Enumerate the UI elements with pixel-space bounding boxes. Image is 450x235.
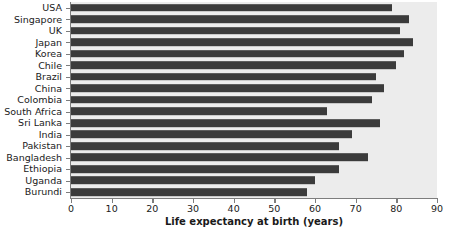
bar — [71, 177, 315, 185]
x-axis-tick-label: 50 — [268, 204, 280, 214]
x-axis-tick-label: 0 — [68, 204, 74, 214]
y-axis-label: Bangladesh — [0, 152, 66, 164]
bar-row — [71, 48, 437, 60]
x-axis-tick-label: 10 — [106, 204, 118, 214]
y-axis-label: Singapore — [0, 14, 66, 26]
x-axis-tick-label: 60 — [309, 204, 321, 214]
y-axis-tick — [66, 88, 70, 89]
bar — [71, 108, 327, 116]
bar — [71, 188, 307, 196]
bar-row — [71, 163, 437, 175]
x-axis-tick-label: 70 — [350, 204, 362, 214]
bar-row — [71, 25, 437, 37]
y-axis-label: India — [0, 129, 66, 141]
bar-row — [71, 83, 437, 95]
y-axis-label: UK — [0, 25, 66, 37]
bar-row — [71, 2, 437, 14]
y-axis-label: Colombia — [0, 94, 66, 106]
bar-row — [71, 60, 437, 72]
x-axis-title: Life expectancy at birth (years) — [71, 217, 437, 227]
y-axis-tick — [66, 158, 70, 159]
bar-row — [71, 37, 437, 49]
y-axis-tick — [66, 31, 70, 32]
y-axis-label: USA — [0, 2, 66, 14]
y-axis-label: Pakistan — [0, 140, 66, 152]
x-axis-tick-label: 80 — [390, 204, 402, 214]
y-axis-label: Burundi — [0, 186, 66, 198]
bar — [71, 15, 409, 23]
y-axis-label: Korea — [0, 48, 66, 60]
x-axis-tick-label: 40 — [228, 204, 240, 214]
x-axis-tick-label: 20 — [146, 204, 158, 214]
bar-row — [71, 152, 437, 164]
bar-row — [71, 94, 437, 106]
plot-area — [71, 2, 437, 198]
bar — [71, 73, 376, 81]
bar — [71, 154, 368, 162]
bar — [71, 96, 372, 104]
x-axis-tick-label: 90 — [431, 204, 443, 214]
bar — [71, 62, 396, 70]
bar — [71, 131, 352, 139]
y-axis-tick — [66, 77, 70, 78]
y-axis-tick — [66, 100, 70, 101]
y-axis-label: China — [0, 83, 66, 95]
bar-row — [71, 129, 437, 141]
bar — [71, 119, 380, 127]
y-axis-tick — [66, 112, 70, 113]
y-axis-label: Uganda — [0, 175, 66, 187]
bar — [71, 165, 339, 173]
y-axis-label: Brazil — [0, 71, 66, 83]
y-axis-tick — [66, 8, 70, 9]
bar-row — [71, 117, 437, 129]
bar — [71, 4, 392, 12]
y-axis-tick — [66, 135, 70, 136]
bar-row — [71, 175, 437, 187]
bar — [71, 27, 400, 35]
y-axis-tick — [66, 181, 70, 182]
y-axis-label: Ethiopia — [0, 163, 66, 175]
x-axis-line — [70, 198, 438, 199]
bar-row — [71, 186, 437, 198]
bar — [71, 85, 384, 93]
y-axis-label: Chile — [0, 60, 66, 72]
y-axis-tick — [66, 42, 70, 43]
y-axis-tick — [66, 169, 70, 170]
bar-row — [71, 106, 437, 118]
bar — [71, 38, 413, 46]
bar-row — [71, 140, 437, 152]
bar-row — [71, 71, 437, 83]
y-axis-tick — [66, 192, 70, 193]
x-axis-tick-label: 30 — [187, 204, 199, 214]
y-axis-label: Japan — [0, 37, 66, 49]
y-axis-tick — [66, 19, 70, 20]
y-axis-category-labels: USASingaporeUKJapanKoreaChileBrazilChina… — [0, 2, 66, 198]
bar — [71, 50, 404, 58]
y-axis-label: Sri Lanka — [0, 117, 66, 129]
bar-row — [71, 14, 437, 26]
y-axis-line — [70, 2, 71, 198]
y-axis-tick — [66, 54, 70, 55]
life-expectancy-bar-chart: USASingaporeUKJapanKoreaChileBrazilChina… — [0, 0, 450, 235]
y-axis-label: South Africa — [0, 106, 66, 118]
y-axis-tick — [66, 123, 70, 124]
y-axis-tick — [66, 65, 70, 66]
bar — [71, 142, 339, 150]
y-axis-tick — [66, 146, 70, 147]
